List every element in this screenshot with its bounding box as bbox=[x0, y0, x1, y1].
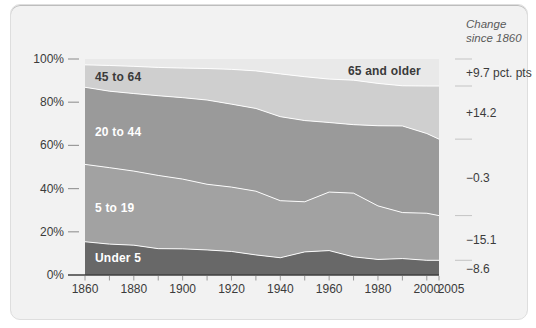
x-tick-label-1880: 1880 bbox=[120, 282, 147, 296]
x-tick-label-1980: 1980 bbox=[365, 282, 392, 296]
change-header-line2: since 1860 bbox=[466, 31, 522, 45]
y-tick-label-100: 100% bbox=[33, 52, 64, 66]
y-tick-label-80: 80% bbox=[40, 95, 64, 109]
band-label-20-to-44: 20 to 44 bbox=[95, 125, 141, 139]
change-header-line1: Change bbox=[466, 17, 522, 31]
x-tick-label-1860: 1860 bbox=[72, 282, 99, 296]
y-tick-label-40: 40% bbox=[40, 182, 64, 196]
band-label-5-to-19: 5 to 19 bbox=[95, 201, 134, 215]
change-value-45-to-64: +14.2 bbox=[466, 106, 496, 120]
x-tick-label-1940: 1940 bbox=[267, 282, 294, 296]
change-value-under-5: −8.6 bbox=[466, 262, 490, 276]
change-value-5-to-19: −15.1 bbox=[466, 233, 496, 247]
band-label-under-5: Under 5 bbox=[95, 251, 141, 265]
change-value-20-to-44: −0.3 bbox=[466, 171, 490, 185]
x-tick-label-1920: 1920 bbox=[218, 282, 245, 296]
x-tick-label-2000: 2000 bbox=[413, 282, 440, 296]
chart-card: Change since 1860 1860188019001920194019… bbox=[10, 4, 528, 320]
change-since-header: Change since 1860 bbox=[466, 17, 522, 45]
band-label-45-to-64: 45 to 64 bbox=[95, 70, 141, 84]
y-tick-label-20: 20% bbox=[40, 225, 64, 239]
x-tick-label-1960: 1960 bbox=[316, 282, 343, 296]
y-tick-label-60: 60% bbox=[40, 138, 64, 152]
y-tick-label-0: 0% bbox=[47, 268, 65, 282]
x-tick-label-2005: 2005 bbox=[438, 282, 465, 296]
band-label-65-and-older: 65 and older bbox=[348, 64, 421, 78]
x-tick-label-1900: 1900 bbox=[169, 282, 196, 296]
change-value-65-and-older: +9.7 pct. pts bbox=[466, 66, 532, 80]
page: Change since 1860 1860188019001920194019… bbox=[0, 0, 536, 328]
